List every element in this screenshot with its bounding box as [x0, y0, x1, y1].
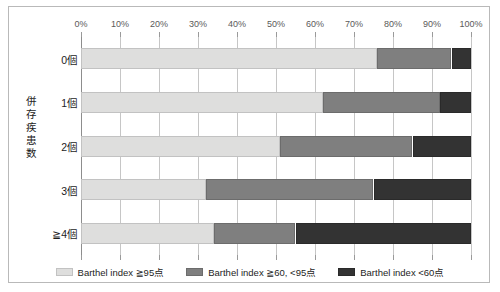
x-tick-label: 20% [150, 19, 168, 29]
bar-segment[interactable] [280, 136, 413, 157]
bar-row[interactable] [81, 179, 471, 200]
category-label: 0個 [19, 52, 77, 67]
bar-segment[interactable] [81, 92, 323, 113]
bar-row[interactable] [81, 48, 471, 69]
legend-item[interactable]: Barthel index ≧60, <95点 [186, 265, 316, 279]
x-axis-tick-labels: 0%10%20%30%40%50%60%70%80%90%100% [81, 19, 479, 33]
legend-label: Barthel index <60点 [360, 265, 444, 279]
x-tick-label: 0% [74, 19, 87, 29]
x-tick-mark-bottom [237, 255, 238, 260]
category-label: 1個 [19, 95, 77, 110]
bar-segment[interactable] [413, 136, 472, 157]
bar-row[interactable] [81, 92, 471, 113]
category-label: 3個 [19, 183, 77, 198]
x-tick-label: 90% [423, 19, 441, 29]
bar-segment[interactable] [81, 48, 377, 69]
bar-segment[interactable] [440, 92, 471, 113]
x-tick-mark-bottom [81, 255, 82, 260]
bar-segment[interactable] [81, 136, 280, 157]
x-tick-mark-bottom [432, 255, 433, 260]
x-tick-mark-bottom [159, 255, 160, 260]
chart-frame: 0%10%20%30%40%50%60%70%80%90%100% 併存疾患数 … [8, 6, 490, 283]
bar-series-layer [81, 37, 471, 255]
x-tick-mark-bottom [393, 255, 394, 260]
x-tick-mark-bottom [354, 255, 355, 260]
x-tick-mark-bottom [315, 255, 316, 260]
chart-legend: Barthel index ≧95点Barthel index ≧60, <95… [9, 265, 491, 279]
x-tick-label: 30% [189, 19, 207, 29]
x-tick-label: 80% [384, 19, 402, 29]
x-tick-label: 10% [111, 19, 129, 29]
category-label: ≧4個 [19, 226, 77, 241]
x-tick-label: 40% [228, 19, 246, 29]
bar-segment[interactable] [214, 223, 296, 244]
bar-segment[interactable] [81, 179, 206, 200]
bar-row[interactable] [81, 136, 471, 157]
category-axis-labels: 0個1個2個3個≧4個 [15, 37, 77, 255]
x-tick-label: 70% [345, 19, 363, 29]
legend-label: Barthel index ≧60, <95点 [208, 265, 316, 279]
x-tick-mark-bottom [120, 255, 121, 260]
plot-area [81, 37, 471, 255]
bar-segment[interactable] [377, 48, 451, 69]
x-tick-label: 100% [459, 19, 482, 29]
x-tick-label: 50% [267, 19, 285, 29]
legend-item[interactable]: Barthel index ≧95点 [56, 265, 165, 279]
bar-segment[interactable] [206, 179, 374, 200]
gridline [471, 37, 472, 255]
bar-segment[interactable] [81, 223, 214, 244]
legend-swatch-mid [186, 268, 203, 276]
legend-item[interactable]: Barthel index <60点 [338, 265, 444, 279]
x-tick-label: 60% [306, 19, 324, 29]
category-label: 2個 [19, 139, 77, 154]
legend-swatch-light [56, 268, 73, 276]
x-tick-mark-bottom [471, 255, 472, 260]
x-tick-mark-bottom [198, 255, 199, 260]
bar-segment[interactable] [323, 92, 440, 113]
bar-row[interactable] [81, 223, 471, 244]
legend-label: Barthel index ≧95点 [78, 265, 165, 279]
x-tick-mark [471, 32, 472, 37]
x-tick-mark-bottom [276, 255, 277, 260]
bar-segment[interactable] [452, 48, 472, 69]
legend-swatch-dark [338, 268, 355, 276]
bar-segment[interactable] [296, 223, 472, 244]
bar-segment[interactable] [374, 179, 472, 200]
